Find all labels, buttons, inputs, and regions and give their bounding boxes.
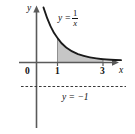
- fraction-numerator: 1: [72, 9, 78, 18]
- x-tick-label-3: 3: [100, 67, 105, 77]
- y-axis-arrowhead: [33, 6, 39, 13]
- y-axis-label: y: [27, 4, 31, 14]
- origin-label: 0: [25, 67, 30, 77]
- math-figure: y x 0 1 3 y =1x y = −1: [0, 0, 135, 134]
- x-tick-label-1: 1: [55, 67, 60, 77]
- fraction-denominator: x: [72, 19, 78, 28]
- curve-equation-fraction: 1x: [72, 9, 78, 29]
- curve-one-over-x: [44, 8, 122, 61]
- curve-equation-lhs: y =: [58, 14, 71, 24]
- x-axis-label: x: [119, 66, 123, 76]
- asymptote-label: y = −1: [62, 93, 89, 103]
- curve-equation-label: y =1x: [58, 9, 78, 29]
